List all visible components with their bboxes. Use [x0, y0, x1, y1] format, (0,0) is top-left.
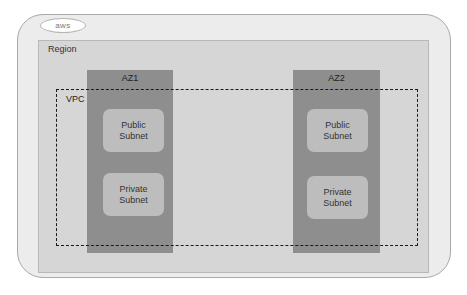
subnet-label-line2: Subnet [323, 198, 352, 209]
subnet-label-line2: Subnet [119, 131, 148, 142]
az2-private-subnet: Private Subnet [307, 176, 368, 219]
subnet-label-line1: Private [119, 184, 147, 195]
subnet-label-line2: Subnet [119, 195, 148, 206]
az2-public-subnet: Public Subnet [307, 109, 368, 152]
aws-logo-text: aws [55, 21, 71, 30]
aws-cloud-badge: aws [40, 18, 86, 33]
az1-public-subnet: Public Subnet [103, 109, 164, 152]
az1-private-subnet: Private Subnet [103, 173, 164, 216]
vpc-label: VPC [66, 94, 85, 104]
az1-label: AZ1 [87, 73, 173, 83]
region-label: Region [48, 44, 77, 54]
subnet-label-line1: Public [325, 120, 350, 131]
subnet-label-line1: Private [323, 187, 351, 198]
subnet-label-line1: Public [121, 120, 146, 131]
az2-label: AZ2 [293, 73, 380, 83]
subnet-label-line2: Subnet [323, 131, 352, 142]
